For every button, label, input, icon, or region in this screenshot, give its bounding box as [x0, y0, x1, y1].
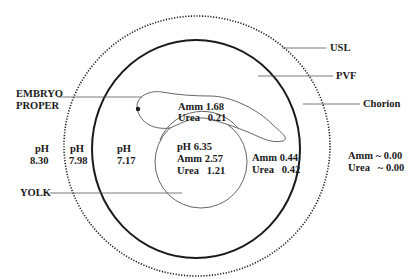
usl-ph-label: pH: [70, 143, 84, 155]
pvf-ph-value: 7.17: [117, 155, 135, 167]
embryo-urea: Urea 0.21: [178, 112, 226, 124]
chorion-label: Chorion: [363, 98, 400, 110]
yolk-label: YOLK: [20, 187, 51, 199]
pvf-ph-label: pH: [117, 143, 131, 155]
pvf-amm: Amm 0.44: [252, 152, 298, 164]
usl-label: USL: [330, 42, 350, 54]
embryo-label-line1: EMBRYO: [16, 88, 63, 100]
outside-ph-label: pH: [35, 143, 49, 155]
yolk-urea: Urea 1.21: [177, 165, 225, 177]
outside-urea: Urea ~ 0.00: [348, 162, 404, 174]
yolk-ph: pH 6.35: [177, 141, 212, 153]
embryo-label-line2: PROPER: [16, 100, 59, 112]
pvf-label: PVF: [336, 70, 356, 82]
outside-amm: Amm ~ 0.00: [348, 150, 402, 162]
pvf-urea: Urea 0.42: [252, 164, 300, 176]
embryo-eye-icon: [136, 107, 140, 111]
yolk-amm: Amm 2.57: [177, 153, 223, 165]
usl-ph-value: 7.98: [69, 155, 87, 167]
outside-ph-value: 8.30: [30, 155, 48, 167]
